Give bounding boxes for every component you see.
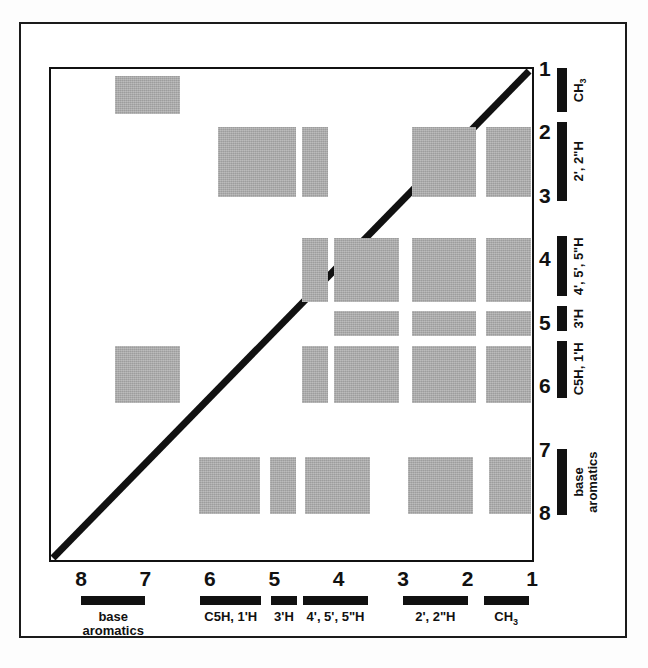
- cross-peak: [302, 127, 328, 197]
- x-axis-tick-2: 2: [462, 568, 474, 589]
- y-assignment-label: C5H, 1'H: [572, 304, 586, 434]
- cropped-caption-strip: [330, 659, 630, 668]
- cross-peak: [412, 311, 476, 336]
- cross-peak: [489, 457, 531, 514]
- x-assignment-bar: [81, 596, 145, 605]
- x-assignment-bar: [200, 596, 261, 605]
- y-axis-tick-3: 3: [539, 184, 551, 205]
- x-assignment-bar: [303, 596, 367, 605]
- cross-peak: [486, 238, 531, 301]
- x-axis-tick-7: 7: [140, 568, 152, 589]
- x-axis-tick-1: 1: [526, 568, 538, 589]
- cross-peak: [305, 457, 369, 514]
- x-axis-tick-3: 3: [397, 568, 409, 589]
- x-axis-tick-5: 5: [268, 568, 280, 589]
- x-assignment-label: CH3: [406, 610, 606, 627]
- cross-peak: [302, 346, 328, 403]
- y-axis-tick-4: 4: [539, 248, 551, 269]
- cross-peak: [486, 311, 531, 336]
- y-assignment-bar: [557, 236, 567, 296]
- cross-peak: [334, 346, 398, 403]
- cross-peak: [412, 127, 476, 197]
- noesy-plot-area: [49, 67, 534, 562]
- figure-panel: 87654321 12345678 basearomaticsC5H, 1'H3…: [0, 0, 648, 668]
- cross-peak: [218, 127, 295, 197]
- y-assignment-bar: [557, 68, 567, 112]
- cross-peak: [302, 238, 328, 301]
- x-assignment-bar: [484, 596, 529, 605]
- y-axis-tick-7: 7: [539, 438, 551, 459]
- y-assignment-bar: [557, 449, 567, 516]
- cross-peak: [412, 238, 476, 301]
- x-axis-tick-8: 8: [75, 568, 87, 589]
- x-axis-tick-6: 6: [204, 568, 216, 589]
- y-assignment-label: basearomatics: [572, 417, 599, 547]
- cross-peak: [115, 346, 179, 403]
- y-axis-tick-5: 5: [539, 311, 551, 332]
- cross-peak: [270, 457, 296, 514]
- y-assignment-bar: [557, 122, 567, 201]
- y-axis-tick-6: 6: [539, 375, 551, 396]
- x-axis-tick-4: 4: [333, 568, 345, 589]
- cross-peak: [412, 346, 476, 403]
- x-assignment-bar: [271, 596, 297, 605]
- cross-peak: [408, 457, 472, 514]
- y-axis-tick-2: 2: [539, 121, 551, 142]
- x-assignment-bar: [403, 596, 467, 605]
- y-assignment-bar: [557, 341, 567, 398]
- cross-peak: [199, 457, 260, 514]
- cross-peak: [486, 346, 531, 403]
- cross-peak: [486, 127, 531, 197]
- y-assignment-bar: [557, 306, 567, 331]
- y-axis-tick-1: 1: [539, 58, 551, 79]
- y-axis-tick-8: 8: [539, 502, 551, 523]
- cross-peak: [334, 311, 398, 336]
- cross-peak: [334, 238, 398, 301]
- cross-peak: [115, 76, 179, 114]
